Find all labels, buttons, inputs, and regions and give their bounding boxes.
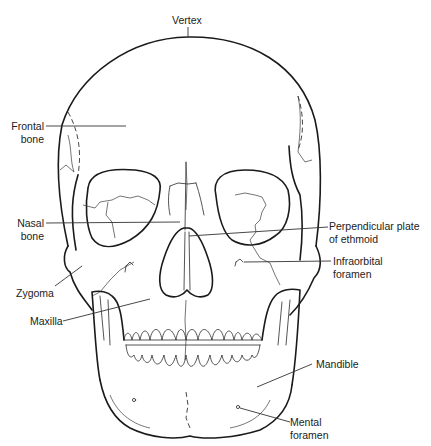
label-perpendicular-plate-line2: of ethmoid <box>329 233 419 246</box>
label-vertex-text: Vertex <box>172 14 202 26</box>
label-maxilla-text: Maxilla <box>30 315 63 327</box>
nasal-aperture <box>160 228 213 297</box>
leader-nasal-bone <box>46 222 180 223</box>
label-infraorbital-foramen: Infraorbital foramen <box>333 255 383 281</box>
leader-perpendicular-plate <box>189 227 328 236</box>
label-zygoma-text: Zygoma <box>16 287 54 299</box>
lower-teeth <box>126 345 260 366</box>
label-mandible: Mandible <box>316 358 359 371</box>
right-zygoma-outline <box>290 246 320 315</box>
right-temporal-wall <box>289 146 302 260</box>
left-orbit-suture <box>83 196 155 238</box>
label-mental-foramen: Mental foramen <box>290 416 329 442</box>
left-sphenoid-suture <box>60 135 74 172</box>
upper-teeth <box>124 330 262 341</box>
label-perpendicular-plate-line1: Perpendicular plate <box>329 220 419 233</box>
label-infraorbital-foramen-line2: foramen <box>333 268 383 281</box>
mandible-outline <box>100 380 292 438</box>
left-orbit <box>86 170 160 247</box>
label-nasal-bone-line1: Nasal <box>8 217 44 230</box>
leader-zygoma <box>55 266 82 286</box>
label-frontal-bone-line2: bone <box>8 133 44 146</box>
label-perpendicular-plate: Perpendicular plate of ethmoid <box>329 220 419 246</box>
label-infraorbital-foramen-line1: Infraorbital <box>333 255 383 268</box>
label-mental-foramen-line2: foramen <box>290 429 329 442</box>
right-ramus <box>262 289 300 385</box>
left-temporal-wall <box>72 175 78 250</box>
right-infraorbital-foramen <box>235 259 243 266</box>
maxillary-midline <box>185 300 186 360</box>
mandible-inner-line <box>110 395 270 428</box>
label-frontal-bone: Frontal bone <box>8 120 44 146</box>
label-frontal-bone-line1: Frontal <box>8 120 44 133</box>
right-orbit-suture <box>235 193 280 285</box>
nasal-midline <box>185 162 186 230</box>
leader-maxilla <box>63 299 150 321</box>
left-infraorbital-foramen <box>125 262 133 272</box>
left-coronoid <box>100 296 110 345</box>
label-mandible-text: Mandible <box>316 358 359 370</box>
label-zygoma: Zygoma <box>16 287 54 300</box>
label-vertex: Vertex <box>172 14 202 27</box>
cranium-outline <box>58 37 320 246</box>
symphysis <box>186 392 190 428</box>
label-maxilla: Maxilla <box>30 315 63 328</box>
leader-mandible <box>257 364 312 387</box>
leader-infraorbital-foramen <box>244 261 331 262</box>
left-mental-foramen <box>132 398 135 401</box>
label-nasal-bone: Nasal bone <box>8 217 44 243</box>
right-mental-foramen <box>236 405 239 408</box>
perpendicular-plate <box>184 232 190 290</box>
left-zygoma-outline <box>64 246 92 310</box>
label-nasal-bone-line2: bone <box>8 230 44 243</box>
right-coronoid <box>278 300 290 345</box>
label-mental-foramen-line1: Mental <box>290 416 329 429</box>
